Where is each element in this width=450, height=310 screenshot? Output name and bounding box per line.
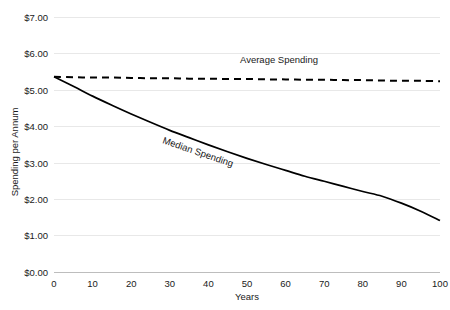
x-tick-label: 0: [51, 278, 56, 289]
x-tick-label: 10: [87, 278, 98, 289]
x-tick-labels: 0 10 20 30 40 50 60 70 80 90 100: [51, 278, 448, 289]
average-spending-line: [54, 77, 440, 81]
y-tick-label: $4.00: [24, 121, 48, 132]
gridlines: [54, 18, 440, 236]
x-tick-label: 100: [432, 278, 448, 289]
x-tick-label: 90: [396, 278, 407, 289]
x-tick-label: 80: [358, 278, 369, 289]
y-tick-label: $0.00: [24, 267, 48, 278]
x-tick-label: 60: [280, 278, 291, 289]
y-tick-label: $6.00: [24, 48, 48, 59]
spending-per-annum-chart: $7.00 $6.00 $5.00 $4.00 $3.00 $2.00 $1.0…: [0, 0, 450, 310]
average-spending-label: Average Spending: [240, 54, 318, 65]
y-tick-label: $1.00: [24, 230, 48, 241]
y-axis-title: Spending per Annum: [9, 108, 20, 197]
y-tick-labels: $7.00 $6.00 $5.00 $4.00 $3.00 $2.00 $1.0…: [24, 12, 48, 278]
chart-canvas: $7.00 $6.00 $5.00 $4.00 $3.00 $2.00 $1.0…: [0, 0, 450, 310]
y-tick-label: $5.00: [24, 85, 48, 96]
x-tick-label: 30: [165, 278, 176, 289]
x-tick-label: 70: [319, 278, 330, 289]
y-tick-label: $7.00: [24, 12, 48, 23]
x-tick-label: 40: [203, 278, 214, 289]
x-tick-label: 20: [126, 278, 137, 289]
y-tick-label: $3.00: [24, 158, 48, 169]
y-tick-label: $2.00: [24, 194, 48, 205]
x-tick-label: 50: [242, 278, 253, 289]
x-axis-title: Years: [235, 291, 259, 302]
median-spending-label: Median Spending: [161, 134, 235, 168]
